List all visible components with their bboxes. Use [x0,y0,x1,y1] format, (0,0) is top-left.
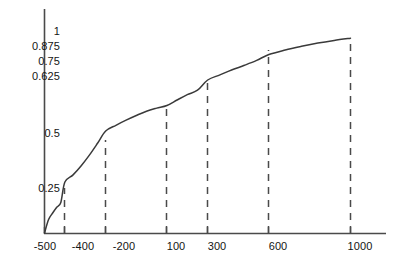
x-tick-label--500: -500 [34,241,56,252]
y-tick-label-0625: 0.625 [32,71,60,82]
y-tick-label-075: 0.75 [38,56,60,67]
x-tick-label--200: -200 [113,241,135,252]
chart-figure: 1 0.875 0.75 0.625 0.5 0.25 -500 -400 -2… [0,0,400,265]
y-tick-label-1: 1 [54,26,60,37]
y-tick-label-0875: 0.875 [32,41,60,52]
plot-area [0,0,400,265]
x-tick-label-300: 300 [208,241,227,252]
reference-lines [65,39,351,233]
x-tick-label-100: 100 [167,241,186,252]
y-tick-label-05: 0.5 [44,128,60,139]
data-curve [45,38,351,233]
x-tick-label-600: 600 [269,241,288,252]
x-tick-label--400: -400 [72,241,94,252]
y-tick-label-025: 0.25 [38,183,60,194]
x-axis-ticks [45,227,351,234]
x-tick-label-1000: 1000 [348,241,373,252]
